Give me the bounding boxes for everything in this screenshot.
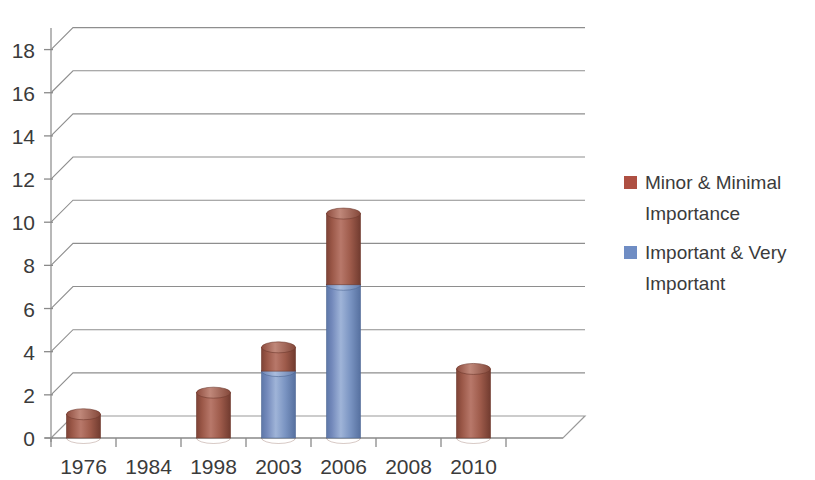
legend-label-continued[interactable]: Important <box>645 273 726 294</box>
bar-segment-cap <box>197 387 231 398</box>
bar-segment <box>457 369 491 438</box>
bar-1998 <box>197 387 231 443</box>
bar-base-curve <box>197 438 231 444</box>
legend-swatch[interactable] <box>624 176 637 189</box>
gridline <box>51 373 585 395</box>
y-axis-label: 10 <box>12 211 35 234</box>
y-axis-label: 12 <box>12 168 35 191</box>
legend-label-continued[interactable]: Importance <box>645 203 740 224</box>
y-axis-label: 14 <box>12 125 36 148</box>
gridline <box>51 200 585 222</box>
bar-base-curve <box>262 438 296 444</box>
stacked-column-chart: 024681012141618 197619841998200320062008… <box>0 0 815 480</box>
bar-1976 <box>67 409 101 444</box>
bar-segment-cap <box>67 409 101 420</box>
bar-2003 <box>262 342 296 444</box>
y-axis-label: 2 <box>23 384 35 407</box>
x-axis-label: 1976 <box>60 455 107 478</box>
y-axis-label: 16 <box>12 82 35 105</box>
gridline <box>51 157 585 179</box>
legend-label[interactable]: Important & Very <box>645 242 787 263</box>
x-axis-label: 1984 <box>125 455 172 478</box>
gridline <box>51 330 585 352</box>
gridline <box>51 243 585 265</box>
bar-segment <box>327 285 361 438</box>
x-axis-label: 2010 <box>450 455 497 478</box>
bar-segment-cap <box>327 208 361 219</box>
y-axis-label: 18 <box>12 39 35 62</box>
bar-base-curve <box>327 438 361 444</box>
y-axis-label: 0 <box>23 427 35 450</box>
gridline <box>51 114 585 136</box>
x-axis-label: 2003 <box>255 455 302 478</box>
x-axis-tick-labels: 1976198419982003200620082010 <box>60 455 497 478</box>
y-axis-tick-labels: 024681012141618 <box>12 39 36 450</box>
bar-segment <box>327 214 361 285</box>
bar-segment-cap <box>457 363 491 374</box>
bar-2006 <box>327 208 361 443</box>
x-axis-label: 2006 <box>320 455 367 478</box>
legend-label[interactable]: Minor & Minimal <box>645 172 781 193</box>
legend-swatch[interactable] <box>624 246 637 259</box>
chart-container: 024681012141618 197619841998200320062008… <box>0 0 815 480</box>
y-axis-label: 8 <box>23 254 35 277</box>
bar-2010 <box>457 363 491 443</box>
x-axis-label: 1998 <box>190 455 237 478</box>
bar-segment <box>197 393 231 438</box>
bar-segment <box>262 371 296 438</box>
gridline <box>51 287 585 309</box>
y-axis-label: 4 <box>23 341 35 364</box>
bar-base-curve <box>67 438 101 444</box>
bar-base-curve <box>457 438 491 444</box>
x-axis-label: 2008 <box>385 455 432 478</box>
chart-floor <box>51 416 585 438</box>
gridline <box>51 71 585 93</box>
gridline <box>51 28 585 50</box>
y-axis-label: 6 <box>23 298 35 321</box>
chart-legend: Minor & MinimalImportanceImportant & Ver… <box>624 172 787 294</box>
bar-segment-cap <box>262 342 296 353</box>
gridlines <box>51 28 585 395</box>
floor-plane <box>51 416 585 438</box>
